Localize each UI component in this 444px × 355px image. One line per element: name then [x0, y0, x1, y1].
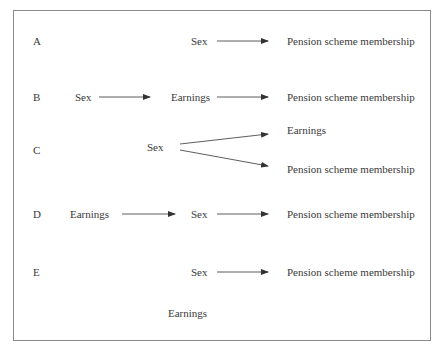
node-c-pension: Pension scheme membership	[287, 163, 415, 176]
arrows-layer	[0, 0, 444, 355]
row-label-c: C	[33, 144, 40, 157]
node-e-pension: Pension scheme membership	[287, 266, 415, 279]
node-d-pension: Pension scheme membership	[287, 208, 415, 221]
arrow-c-sex-earnings	[180, 134, 268, 144]
node-c-earnings: Earnings	[287, 124, 326, 137]
arrow-c-sex-pension	[180, 150, 268, 166]
node-e-earnings: Earnings	[168, 307, 207, 320]
node-b-pension: Pension scheme membership	[287, 91, 415, 104]
row-label-d: D	[33, 208, 41, 221]
node-a-sex: Sex	[191, 35, 208, 48]
row-label-a: A	[33, 35, 41, 48]
row-label-b: B	[33, 91, 40, 104]
node-c-sex: Sex	[147, 141, 164, 154]
node-b-sex: Sex	[75, 91, 92, 104]
node-a-pension: Pension scheme membership	[287, 35, 415, 48]
node-d-sex: Sex	[191, 208, 208, 221]
row-label-e: E	[33, 266, 40, 279]
node-e-sex: Sex	[191, 266, 208, 279]
node-d-earnings: Earnings	[70, 208, 109, 221]
node-b-earnings: Earnings	[171, 91, 210, 104]
